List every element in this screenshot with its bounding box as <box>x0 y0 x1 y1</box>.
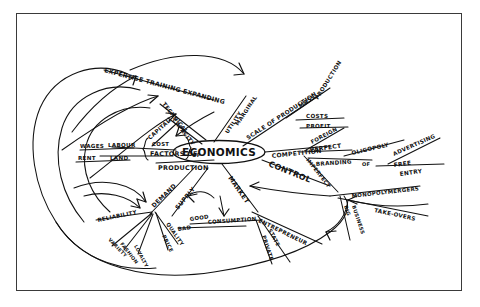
factors-of-label: FACTORS OF <box>150 150 198 158</box>
demand-curve-arrow-1 <box>74 182 146 202</box>
production-label: PRODUCTION <box>158 164 209 172</box>
expertise-label: EXPERTISE TRAINING EXPANDING <box>104 66 226 105</box>
land-label: LAND <box>110 155 128 161</box>
top-sweep-arrow <box>130 55 244 74</box>
outer-loop-curve <box>33 68 156 268</box>
demand-label: DEMAND <box>150 182 178 209</box>
advertising-label: ADVERTISING <box>392 133 436 157</box>
control-label: CONTROL <box>267 160 312 185</box>
factors-of-suffix: OF <box>192 152 201 158</box>
wages-label: WAGES <box>80 143 104 149</box>
capacity-label: CAPACITY <box>171 117 196 147</box>
reliability-label: RELIABILITY <box>97 209 137 223</box>
bad-label: BAD <box>177 224 192 232</box>
market-inflow-arrowhead <box>250 182 260 190</box>
profit-label: PROFIT <box>306 123 331 129</box>
market-inflow-arrow <box>250 186 330 196</box>
control-inflow-arrow <box>348 200 428 206</box>
labour-label: LABOUR <box>108 142 136 148</box>
entrepreneur-inflow-arrowhead <box>326 231 336 240</box>
bottom-enclosure-curve <box>56 222 330 275</box>
cost-bracket-label: COST <box>152 141 169 147</box>
expertise-arrow-1 <box>72 76 136 132</box>
mindmap-sketch: ECONOMICS COST FACTORS OF OF PRODUCTION … <box>0 0 480 307</box>
mass-production-label: PRODUCTION <box>314 59 343 100</box>
free-label: FREE <box>393 160 411 168</box>
mergers-label: MERGERS <box>387 185 419 195</box>
entry-label: ENTRY <box>399 168 423 177</box>
market-label: MARKET <box>226 175 251 206</box>
right-enclosure-curve <box>330 196 348 232</box>
monopoly-label: MONOPOLY <box>351 189 388 199</box>
branding-label: BRANDING <box>316 158 352 167</box>
capital-label: CAPITAL <box>147 117 172 140</box>
rent-label: RENT <box>78 155 96 161</box>
good-label: GOOD <box>189 213 209 222</box>
consumption-label: CONSUMPTION <box>208 216 257 225</box>
oligopoly-label: OLIGOPOLY <box>351 141 390 156</box>
supply-label: SUPPLY <box>173 185 196 210</box>
business-label: BUSINESS <box>351 204 366 235</box>
branding-suffix: OF <box>362 161 370 167</box>
costs-label: COSTS <box>306 113 328 119</box>
